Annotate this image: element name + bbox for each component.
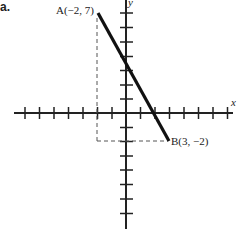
coordinate-plane	[0, 0, 239, 229]
point-b-label: B(3, −2)	[171, 135, 208, 147]
segment-ab	[98, 13, 169, 141]
point-a-label: A(−2, 7)	[56, 4, 94, 16]
x-axis-label: x	[231, 96, 236, 108]
y-axis-label: y	[128, 0, 133, 8]
